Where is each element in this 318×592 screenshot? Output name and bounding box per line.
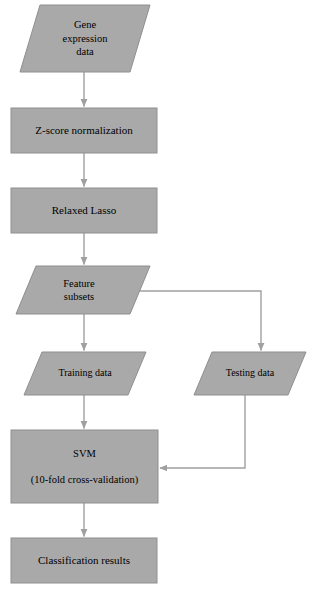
node-svm xyxy=(11,430,158,503)
node-training-data xyxy=(24,352,146,395)
node-relaxed-lasso xyxy=(11,188,157,233)
node-gene-expression-data xyxy=(20,5,150,72)
node-shape-group xyxy=(11,5,306,583)
node-testing-data xyxy=(194,352,306,395)
flowchart-canvas xyxy=(0,0,318,592)
edge-testing-to-svm xyxy=(160,395,245,468)
flowchart-diagram: Gene expression data Z-score normalizati… xyxy=(0,0,318,592)
edge-feature-to-testing xyxy=(130,291,261,351)
node-z-score-normalization xyxy=(11,108,157,153)
node-classification-results xyxy=(11,538,157,583)
node-feature-subsets xyxy=(16,266,150,314)
